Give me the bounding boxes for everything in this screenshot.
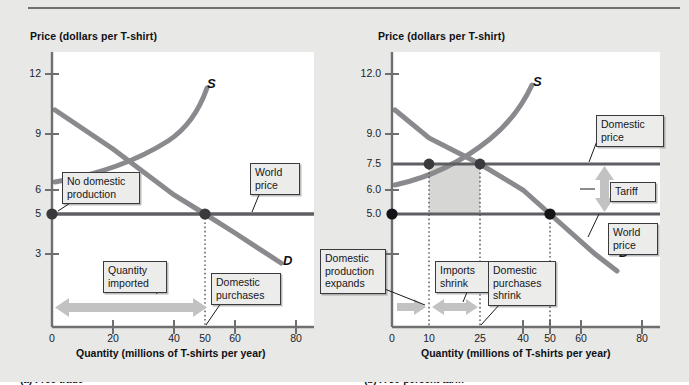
panel-a-ytick-12: 12 [14,67,41,79]
panel-a-x-axis-title: Quantity (millions of T-shirts per year) [76,347,266,359]
panel-a-ytick-5: 5 [14,207,41,219]
callout-domestic-purchases-shrink: Domestic purchases shrink [488,261,556,306]
panel-b-demand-curve [395,110,617,271]
panel-b-x-axis-title: Quantity (millions of T-shirts per year) [421,347,611,359]
callout-domestic-price: Domestic price [596,115,664,147]
callout-quantity-imported: Quantity imported [103,261,167,293]
callout-world-price-b: World price [608,223,658,255]
callout-world-price: World price [250,163,300,195]
panel-a-xtick-20: 20 [103,332,123,344]
panel-b-ytick-5: 5.0 [349,207,381,219]
panel-b-xtick-80: 80 [632,332,652,344]
panel-a-ytick-6: 6 [14,183,41,195]
panel-b-ytick-9: 9.0 [349,127,381,139]
panel-a-xtick-40: 40 [164,332,184,344]
figure-footer-spacer [0,367,689,382]
panel-b-xtick-0: 0 [382,332,402,344]
panel-b-domestic-production-expands-arrow [397,299,426,315]
panel-a-point-no-domestic-production [46,208,57,219]
callout-no-domestic-production: No domestic production [62,172,140,204]
panel-b-point-domestic-production [424,159,435,170]
panel-a-point-domestic-purchases [199,208,210,219]
panel-a-supply-curve-label: S [207,76,216,91]
panel-b-supply-curve-label: S [533,74,542,89]
panel-b-xtick-25: 25 [470,332,490,344]
panel-a-ytick-9: 9 [14,127,41,139]
panel-b-ytick-7-5: 7.5 [349,157,381,169]
panel-free-trade: Price (dollars per T-shirt) [0,22,345,367]
panel-a-supply-curve [55,88,207,182]
callout-domestic-production-expands: Domestic production expands [320,249,386,294]
panel-a-xtick-60: 60 [225,332,245,344]
panel-b-point-world-price-origin [386,208,397,219]
panel-a-demand-curve-label: D [283,253,292,268]
panel-b-ytick-6: 6.0 [349,183,381,195]
callout-domestic-purchases: Domestic purchases [211,273,281,305]
top-rule [28,7,680,9]
panel-a-ytick-3: 3 [14,247,41,259]
panel-a-plot-area: 12 9 6 5 3 0 20 40 50 60 80 S D No domes… [0,22,345,367]
panel-tariff: Price (dollars per T-shirt) [345,22,689,367]
panel-b-point-free-trade-quantity [544,208,555,219]
panel-a-xtick-0: 0 [42,332,62,344]
panel-b-xtick-10: 10 [419,332,439,344]
callout-imports-shrink: Imports shrink [435,261,491,293]
panel-a-xtick-50: 50 [195,332,215,344]
panel-a-xtick-80: 80 [286,332,306,344]
panel-b-plot-area: 12.0 9.0 7.5 6.0 5.0 3.0 0 10 25 40 50 6… [345,22,689,367]
panel-b-point-domestic-purchases [475,159,486,170]
panel-b-imports-shrink-arrow [432,299,478,315]
callout-tariff: Tariff [610,182,656,202]
panel-b-xtick-40: 40 [513,332,533,344]
panel-a-quantity-imported-arrow [55,298,207,317]
panel-b-xtick-50: 50 [540,332,560,344]
panel-b-ytick-12: 12.0 [349,67,381,79]
panel-b-xtick-60: 60 [571,332,591,344]
